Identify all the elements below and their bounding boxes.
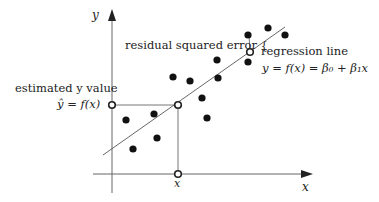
data-point bbox=[150, 110, 157, 117]
data-point bbox=[244, 58, 251, 65]
prediction-point bbox=[175, 102, 182, 109]
y-axis-arrow-icon bbox=[108, 9, 116, 21]
data-point bbox=[122, 116, 129, 123]
data-point bbox=[198, 94, 205, 101]
regression-line-label: regression line bbox=[261, 46, 348, 58]
x-axis-label: x bbox=[302, 181, 309, 193]
residual-label: residual squared error { bbox=[125, 40, 268, 52]
x-axis-arrow-icon bbox=[301, 170, 313, 178]
estimated-y-marker bbox=[109, 102, 116, 109]
data-point bbox=[264, 24, 271, 31]
data-point bbox=[186, 77, 193, 84]
estimated-value-formula: ŷ = f(x) bbox=[57, 99, 100, 111]
data-point bbox=[153, 134, 160, 141]
data-point bbox=[129, 145, 136, 152]
estimated-value-label: estimated y value bbox=[15, 83, 118, 95]
data-point bbox=[214, 74, 221, 81]
x-value-label: x bbox=[174, 178, 180, 189]
regression-equation: y = f(x) = β₀ + β₁x bbox=[262, 63, 368, 75]
data-point bbox=[281, 31, 288, 38]
y-axis-label: y bbox=[92, 9, 99, 21]
data-point bbox=[169, 73, 176, 80]
hollow-markers bbox=[109, 49, 254, 178]
data-point bbox=[213, 56, 220, 63]
data-point bbox=[203, 114, 210, 121]
